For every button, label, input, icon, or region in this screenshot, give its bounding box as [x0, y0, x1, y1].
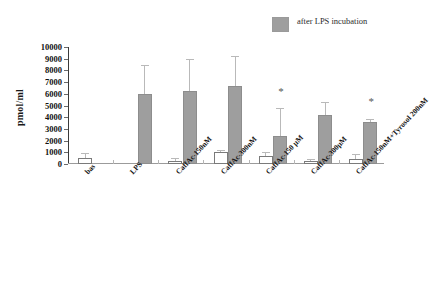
plot-area: 0100020003000400050006000700080009000100… [68, 47, 384, 164]
error-bar [175, 158, 176, 161]
error-bar-cap [186, 59, 194, 60]
bar-baseline [349, 159, 363, 164]
y-tick-label: 10000 [41, 42, 62, 52]
bar-group [203, 47, 248, 164]
y-tick-label: 5000 [45, 101, 62, 111]
bar-group [113, 47, 158, 164]
bar-baseline [304, 161, 318, 164]
bar-after-lps [318, 115, 332, 164]
error-bar [235, 56, 236, 85]
bar-baseline [214, 152, 228, 164]
y-tick-label: 2000 [45, 136, 62, 146]
bar-after-lps [273, 136, 287, 164]
error-bar-cap [262, 152, 270, 153]
y-tick-label: 4000 [45, 112, 62, 122]
legend-label-after-lps-incubation: after LPS incubation [297, 16, 367, 26]
bar-group [68, 47, 113, 164]
y-tick-mark [64, 164, 68, 165]
error-bar-cap [352, 154, 360, 155]
bar-baseline [78, 158, 92, 164]
y-tick-label: 6000 [45, 89, 62, 99]
bar-after-lps [363, 122, 377, 164]
bar-group [249, 47, 294, 164]
y-tick-label: 3000 [45, 124, 62, 134]
error-bar-cap [276, 108, 284, 109]
bar-group [294, 47, 339, 164]
y-axis-title: pmol/ml [11, 72, 27, 142]
x-tick-label: bas [83, 162, 97, 176]
error-bar [280, 108, 281, 136]
bar-after-lps [228, 86, 242, 164]
y-tick-label: 9000 [45, 54, 62, 64]
error-bar-cap [307, 159, 315, 160]
significance-asterisk: * [368, 98, 374, 104]
y-tick-label: 8000 [45, 65, 62, 75]
y-tick-label: 1000 [45, 147, 62, 157]
bar-after-lps [138, 94, 152, 164]
error-bar [310, 159, 311, 161]
bar-after-lps [183, 91, 197, 164]
error-bar-cap [81, 153, 89, 154]
y-tick-label: 0 [58, 159, 62, 169]
error-bar [370, 119, 371, 122]
error-bar-cap [366, 119, 374, 120]
error-bar-cap [141, 65, 149, 66]
error-bar-cap [217, 150, 225, 151]
error-bar-cap [321, 102, 329, 103]
bar-baseline [259, 156, 273, 164]
error-bar [265, 152, 266, 156]
error-bar [325, 102, 326, 115]
y-tick-label: 7000 [45, 77, 62, 87]
error-bar-cap [171, 158, 179, 159]
error-bar [144, 65, 145, 94]
chart-legend: after LPS incubation [272, 16, 367, 32]
error-bar-cap [231, 56, 239, 57]
legend-swatch-after-lps-incubation [272, 17, 289, 32]
error-bar [85, 153, 86, 158]
error-bar [220, 150, 221, 152]
error-bar [189, 59, 190, 92]
bar-baseline [168, 161, 182, 165]
bar-group [158, 47, 203, 164]
significance-asterisk: * [278, 88, 284, 94]
bar-group [339, 47, 384, 164]
y-axis-title-text: pmol/ml [14, 89, 25, 126]
error-bar [355, 154, 356, 159]
